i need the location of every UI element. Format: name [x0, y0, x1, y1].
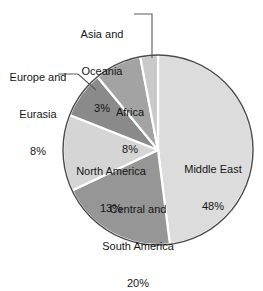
pie-slice-middle-east[interactable] [158, 55, 253, 244]
leader-line-asia-and-oceania [134, 14, 152, 58]
slice-label-central-and-south-america-value: 20% [86, 277, 190, 289]
